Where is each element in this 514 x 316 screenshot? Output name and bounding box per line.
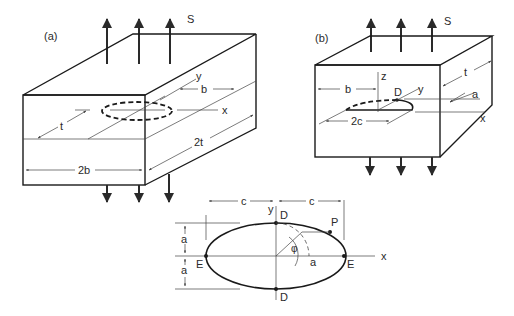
tension-arrows-down-b	[370, 157, 432, 175]
panel-a-load-label: S	[187, 13, 194, 25]
point-e-left-marker	[204, 254, 208, 258]
panel-b-label: (b)	[315, 32, 328, 44]
dim-2b-label-a: 2b	[78, 164, 90, 176]
dim-b-label-a: b	[201, 83, 207, 95]
y-axis-label-detail: y	[268, 203, 274, 215]
dim-2c-label-b: 2c	[351, 115, 363, 127]
ellipse-detail: y x c c a a D D E E P	[175, 195, 387, 303]
angle-phi-label: φ	[291, 243, 298, 254]
point-e-left-label: E	[196, 258, 203, 270]
embedded-crack-ellipse	[102, 102, 172, 120]
dim-a-bottom-label: a	[181, 264, 188, 276]
dim-c-right-label: c	[309, 195, 315, 207]
panel-b-load-label: S	[444, 15, 451, 27]
y-axis-label-a: y	[196, 70, 202, 82]
dim-t-label-a: t	[60, 120, 63, 132]
x-axis-label-detail: x	[381, 250, 387, 262]
crack-geometry-figure: (a) S	[0, 0, 514, 316]
radius-a-label: a	[310, 256, 317, 268]
dim-b-label-b: b	[345, 83, 351, 95]
point-e-right-label: E	[347, 258, 354, 270]
point-p-label: P	[331, 216, 338, 228]
x-axis-label-b: x	[480, 112, 486, 124]
z-axis-label-b: z	[381, 70, 387, 82]
panel-a-label: (a)	[44, 30, 57, 42]
point-d-top-label: D	[280, 209, 288, 221]
surface-crack-hidden	[346, 100, 398, 110]
dim-2t-label-a: 2t	[194, 136, 203, 148]
x-axis-label-a: x	[222, 104, 228, 116]
point-d-bottom-label: D	[280, 291, 288, 303]
point-e-right-marker	[342, 254, 346, 258]
point-d-label-b: D	[394, 86, 402, 98]
panel-b: (b) S D z y x	[315, 15, 492, 175]
dim-a-top-label: a	[181, 233, 188, 245]
point-d-bottom-marker	[274, 287, 278, 291]
tension-arrows-up-a	[107, 19, 170, 64]
panel-a: (a) S	[23, 13, 256, 202]
y-axis-label-b: y	[418, 83, 424, 95]
dim-t-label-b: t	[464, 66, 467, 78]
dim-a-label-b: a	[472, 88, 479, 100]
dim-c-left-label: c	[241, 195, 247, 207]
